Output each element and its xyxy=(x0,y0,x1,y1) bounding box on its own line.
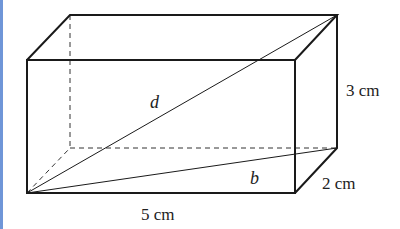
top-face-edges xyxy=(27,15,337,60)
diagonals xyxy=(27,15,337,193)
label-length: 5 cm xyxy=(141,205,175,224)
hidden-left-bottom-depth-edge xyxy=(27,148,70,193)
base-diagonal-b xyxy=(27,148,337,193)
label-b: b xyxy=(250,168,259,188)
prism-diagram: d b 3 cm 5 cm 2 cm xyxy=(0,0,400,229)
label-d: d xyxy=(150,92,160,112)
right-face-edges xyxy=(295,15,337,193)
label-height: 3 cm xyxy=(346,81,380,100)
space-diagonal-d xyxy=(27,15,337,193)
label-width: 2 cm xyxy=(322,174,356,193)
